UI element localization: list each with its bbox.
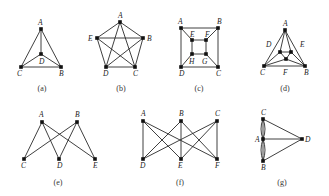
graph-vertex (261, 137, 265, 141)
graph-edge (97, 38, 106, 67)
graph-vertex (118, 20, 122, 24)
graph-edge (263, 139, 302, 161)
graph-edge (285, 30, 291, 52)
vertex-label: C (133, 69, 139, 78)
vertex-label: C (260, 68, 266, 77)
vertex-label: B (217, 17, 222, 26)
graph-edge (77, 122, 95, 159)
graph-vertex (289, 50, 293, 54)
graph-vertex (204, 52, 208, 56)
panel-caption: (d) (280, 84, 290, 93)
captions-layer: (a)(b)(c)(d)(e)(f)(g) (38, 84, 290, 187)
graph-vertex (40, 120, 44, 124)
vertex-label: B (59, 69, 64, 78)
graph-edge (106, 38, 143, 67)
graph-edge (206, 54, 218, 67)
graph-vertex (141, 36, 145, 40)
vertex-label: F (214, 161, 220, 170)
graph-vertex (190, 52, 194, 56)
vertex-label: C (21, 161, 27, 170)
panel-caption: (a) (38, 84, 47, 93)
graph-vertex (261, 117, 265, 121)
graph-vertex (75, 120, 79, 124)
graph-edge (120, 22, 135, 67)
vertex-label: F (282, 68, 288, 77)
vertex-label: B (304, 68, 309, 77)
graph-vertex (278, 50, 282, 54)
vertex-label: C (215, 109, 221, 118)
vertex-label: D (178, 69, 185, 78)
vertex-label: D (304, 135, 311, 144)
graph-edge (106, 22, 120, 67)
vertex-label: E (189, 30, 195, 39)
vertex-label: D (139, 161, 146, 170)
vertex-label: B (261, 163, 266, 172)
graph-edge (21, 29, 41, 67)
graph-edge (59, 122, 77, 159)
panel-caption: (f) (176, 178, 184, 187)
vertex-label: C (17, 69, 23, 78)
graph-edge (24, 122, 42, 159)
panel-caption: (e) (54, 178, 63, 187)
graph-vertex (283, 28, 287, 32)
graph-vertex (216, 26, 220, 30)
graph-figure: ABCDABCDEABCDEFGHABCDEFABCDEABCDEFABCD (… (0, 0, 329, 196)
graph-vertex (300, 137, 304, 141)
vertex-label: D (38, 57, 45, 66)
vertex-label: A (117, 11, 123, 20)
vertex-label: H (188, 57, 195, 66)
vertex-label: E (92, 161, 98, 170)
graph-vertex (95, 36, 99, 40)
panel-caption: (b) (116, 84, 126, 93)
graph-vertex (141, 119, 145, 123)
vertex-label: A (177, 17, 183, 26)
graph-edge (135, 38, 143, 67)
vertex-label: G (202, 57, 208, 66)
graph-vertex (215, 119, 219, 123)
vertex-label: A (38, 110, 44, 119)
graph-vertex (179, 26, 183, 30)
panel-caption: (g) (277, 178, 287, 187)
vertex-label: A (254, 135, 260, 144)
graph-vertex (284, 57, 288, 61)
vertex-label: E (299, 40, 305, 49)
vertex-label: C (216, 69, 222, 78)
graph-edge (97, 22, 120, 38)
graph-vertex (179, 119, 183, 123)
panel-caption: (c) (195, 84, 204, 93)
graph-edge (97, 38, 135, 67)
graph-edge (280, 30, 285, 52)
vertex-label: A (282, 19, 288, 28)
vertex-label: E (87, 34, 93, 43)
vertex-label: A (37, 18, 43, 27)
vertex-label: A (140, 109, 146, 118)
vertex-label: E (177, 161, 183, 170)
vertex-label: D (265, 40, 272, 49)
vertex-label: F (204, 30, 210, 39)
vertex-label: B (179, 109, 184, 118)
vertex-label: B (147, 34, 152, 43)
graph-edge (263, 119, 302, 139)
vertex-label: B (75, 110, 80, 119)
vertex-label: C (261, 108, 267, 117)
vertex-label: D (56, 161, 63, 170)
vertex-label: D (102, 69, 109, 78)
graph-vertex (39, 27, 43, 31)
graph-edge (120, 22, 143, 38)
graph-vertex (39, 52, 43, 56)
